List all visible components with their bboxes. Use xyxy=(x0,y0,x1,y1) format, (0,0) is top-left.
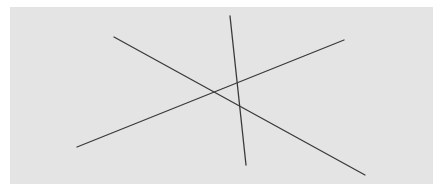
ascending-line xyxy=(77,40,344,147)
steep-line xyxy=(230,16,246,165)
intersecting-lines xyxy=(0,0,447,194)
diagram-canvas xyxy=(0,0,447,194)
